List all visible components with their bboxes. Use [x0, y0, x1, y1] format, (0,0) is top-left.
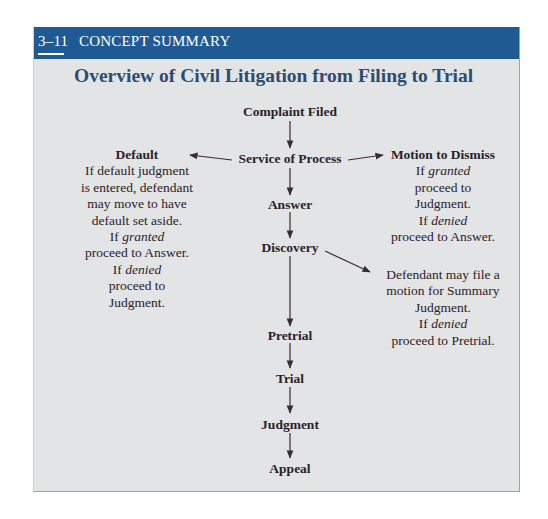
node-pretrial: Pretrial	[268, 328, 313, 344]
summary-denied-result: proceed to Pretrial.	[386, 333, 500, 349]
summary-line-1: Defendant may file a	[386, 267, 500, 283]
summary-denied-line: If denied	[386, 316, 500, 332]
summary-line-2: motion for Summary	[386, 283, 500, 299]
node-answer: Answer	[268, 197, 312, 213]
node-appeal: Appeal	[269, 461, 310, 477]
diagram-title: Overview of Civil Litigation from Filing…	[74, 65, 473, 87]
default-line-1: If default judgment	[81, 163, 193, 179]
motion-granted-result-1: proceed to	[391, 180, 495, 196]
denied-italic: denied	[431, 213, 467, 228]
default-granted-result: proceed to Answer.	[81, 245, 193, 261]
motion-denied-line: If denied	[391, 213, 495, 229]
motion-granted-line: If granted	[391, 163, 495, 179]
section-number-underline	[38, 53, 64, 55]
branch-default: Default If default judgment is entered, …	[81, 147, 193, 311]
node-complaint-filed: Complaint Filed	[243, 104, 337, 120]
default-line-2: is entered, defendant	[81, 180, 193, 196]
section-number: 3–11	[38, 33, 68, 50]
default-denied-line: If denied	[81, 262, 193, 278]
branch-summary-judgment: Defendant may file a motion for Summary …	[386, 267, 500, 349]
summary-line-3: Judgment.	[386, 300, 500, 316]
node-judgment: Judgment	[261, 417, 319, 433]
granted-italic: granted	[428, 163, 470, 178]
default-denied-result-1: proceed to	[81, 278, 193, 294]
section-label: CONCEPT SUMMARY	[79, 33, 231, 50]
default-denied-result-2: Judgment.	[81, 295, 193, 311]
header-band: 3–11 CONCEPT SUMMARY	[34, 27, 519, 59]
default-granted-line: If granted	[81, 229, 193, 245]
default-line-3: may move to have	[81, 196, 193, 212]
branch-motion-to-dismiss: Motion to Dismiss If granted proceed to …	[391, 147, 495, 245]
motion-granted-result-2: Judgment.	[391, 196, 495, 212]
denied-italic: denied	[125, 262, 161, 277]
denied-italic: denied	[431, 316, 467, 331]
motion-heading: Motion to Dismiss	[391, 147, 495, 163]
node-service-of-process: Service of Process	[238, 151, 341, 167]
node-discovery: Discovery	[262, 240, 319, 256]
granted-italic: granted	[122, 229, 164, 244]
default-line-4: default set aside.	[81, 213, 193, 229]
node-trial: Trial	[276, 371, 304, 387]
motion-denied-result: proceed to Answer.	[391, 229, 495, 245]
default-heading: Default	[81, 147, 193, 163]
